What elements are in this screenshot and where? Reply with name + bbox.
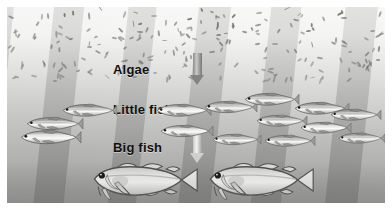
algae-mark xyxy=(183,51,186,55)
algae-mark xyxy=(311,23,313,27)
algae-mark xyxy=(123,46,128,50)
little-fish xyxy=(19,128,81,147)
algae-mark xyxy=(151,14,157,16)
algae-mark xyxy=(157,30,160,36)
algae-mark xyxy=(250,27,253,32)
algae-mark xyxy=(293,18,299,21)
algae-mark xyxy=(348,50,352,52)
algae-mark xyxy=(256,12,262,15)
algae-mark xyxy=(190,27,192,31)
algae-mark xyxy=(145,27,149,33)
arrow-shaft xyxy=(193,53,202,75)
algae-mark xyxy=(378,46,381,52)
algae-mark xyxy=(133,11,138,14)
algae-mark xyxy=(273,74,277,76)
algae-mark xyxy=(310,61,315,67)
algae-mark xyxy=(20,60,23,67)
algae-mark xyxy=(290,22,293,27)
algae-mark xyxy=(40,14,43,20)
algae-mark xyxy=(290,77,292,82)
food-chain-figure: Algae Little fish Big fish xyxy=(0,0,392,212)
algae-mark xyxy=(95,49,101,53)
algae-mark xyxy=(377,11,381,18)
algae-mark xyxy=(364,51,370,57)
algae-mark xyxy=(339,56,343,62)
arrow-head-icon xyxy=(190,75,204,85)
algae-mark xyxy=(210,10,214,13)
little-fish xyxy=(337,131,385,145)
label-big-fish: Big fish xyxy=(113,140,162,155)
algae-mark xyxy=(12,77,16,79)
algae-mark xyxy=(286,49,289,53)
algae-mark xyxy=(118,27,123,32)
little-fish xyxy=(329,107,381,123)
algae-mark xyxy=(371,47,375,52)
algae-mark xyxy=(272,43,278,45)
algae-mark xyxy=(284,76,287,82)
little-fish xyxy=(61,102,117,119)
algae-mark xyxy=(303,57,306,62)
algae-mark xyxy=(234,62,239,68)
algae-mark xyxy=(311,42,314,48)
algae-mark xyxy=(153,72,157,75)
algae-mark xyxy=(47,13,49,19)
algae-mark xyxy=(86,28,91,33)
algae-mark xyxy=(220,75,223,81)
algae-mark xyxy=(215,37,219,40)
algae-mark xyxy=(255,43,260,46)
algae-mark xyxy=(73,61,76,67)
algae-mark xyxy=(348,67,350,72)
algae-mark xyxy=(50,44,53,49)
algae-mark xyxy=(293,48,297,53)
algae-mark xyxy=(58,66,64,72)
algae-mark xyxy=(162,40,167,42)
algae-mark xyxy=(172,49,175,55)
algae-mark xyxy=(304,74,307,80)
algae-mark xyxy=(218,40,224,46)
algae-mark xyxy=(64,13,66,17)
algae-mark xyxy=(264,47,268,53)
algae-mark xyxy=(261,68,267,71)
algae-mark xyxy=(232,23,235,28)
algae-mark xyxy=(122,12,126,19)
algae-mark xyxy=(335,37,337,43)
algae-mark xyxy=(168,74,171,79)
algae-mark xyxy=(129,36,135,40)
algae-mark xyxy=(177,27,179,31)
algae-mark xyxy=(87,46,92,48)
algae-mark xyxy=(35,21,39,26)
algae-mark xyxy=(142,53,145,58)
little-fish xyxy=(159,123,213,139)
algae-mark xyxy=(297,57,302,61)
algae-mark xyxy=(300,31,306,35)
algae-mark xyxy=(228,39,231,44)
algae-mark xyxy=(173,22,177,27)
algae-mark xyxy=(69,38,73,41)
algae-mark xyxy=(148,58,153,60)
algae-mark xyxy=(201,31,207,35)
algae-mark xyxy=(300,13,304,17)
algae-mark xyxy=(346,77,352,82)
algae-mark xyxy=(31,75,37,78)
algae-mark xyxy=(75,69,79,72)
algae-mark xyxy=(284,7,291,10)
algae-mark xyxy=(53,80,57,82)
algae-mark xyxy=(241,30,246,33)
algae-mark xyxy=(375,34,381,38)
algae-mark xyxy=(266,77,271,82)
algae-mark xyxy=(174,46,178,52)
algae-mark xyxy=(298,39,302,44)
underwater-scene: Algae Little fish Big fish xyxy=(7,7,385,203)
algae-mark xyxy=(98,7,102,11)
algae-mark xyxy=(53,61,57,68)
algae-mark xyxy=(192,37,197,40)
algae-mark xyxy=(364,37,369,41)
algae-mark xyxy=(104,74,109,79)
algae-mark xyxy=(200,19,202,23)
algae-mark xyxy=(57,25,62,30)
little-fish xyxy=(243,91,299,108)
algae-mark xyxy=(112,37,117,40)
algae-mark xyxy=(200,8,203,12)
algae-mark xyxy=(254,69,259,73)
algae-mark xyxy=(55,31,57,38)
